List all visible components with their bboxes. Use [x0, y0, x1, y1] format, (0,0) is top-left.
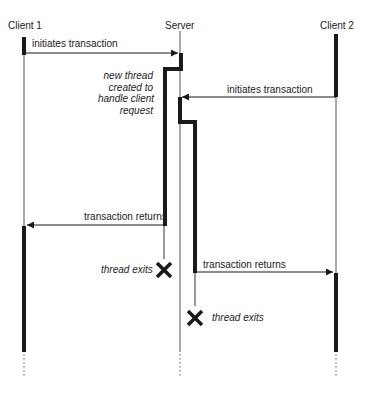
annotation-line: handle client	[98, 93, 153, 105]
message-label-initiates-2: initiates transaction	[227, 84, 313, 95]
message-label-returns-2: transaction returns	[203, 259, 286, 270]
message-label-initiates-1: initiates transaction	[32, 38, 118, 49]
thread-exit-label-2: thread exits	[212, 312, 264, 323]
thread-1	[165, 53, 181, 226]
new-thread-annotation: new thread created to handle client requ…	[98, 70, 153, 116]
thread-exit-label-1: thread exits	[101, 264, 153, 275]
thread-exit-x-icon-1	[157, 263, 171, 277]
thread-2	[180, 97, 195, 273]
message-label-returns-1: transaction returns	[84, 211, 167, 222]
annotation-line: request	[98, 105, 153, 117]
sequence-diagram	[0, 0, 366, 397]
participant-client2: Client 2	[320, 20, 354, 31]
participant-client1: Client 1	[8, 20, 42, 31]
participant-server: Server	[165, 20, 194, 31]
thread-exit-x-icon-2	[188, 311, 202, 325]
annotation-line: new thread	[98, 70, 153, 82]
annotation-line: created to	[98, 82, 153, 94]
